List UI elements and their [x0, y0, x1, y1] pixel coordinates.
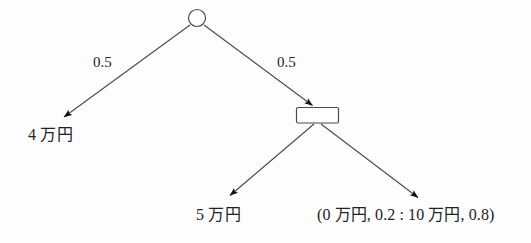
outcome-label-right-lottery: (0 万円, 0.2 : 10 万円, 0.8)	[317, 207, 495, 223]
chance-node-circle	[189, 10, 206, 27]
edge-root-to-decision	[204, 25, 313, 106]
edge-decision-to-right	[321, 124, 418, 198]
outcome-label-middle: 5 万円	[196, 207, 241, 223]
decision-tree-diagram: 0.5 0.5 4 万円 5 万円 (0 万円, 0.2 : 10 万円, 0.…	[0, 0, 531, 243]
decision-node-rect	[297, 108, 339, 124]
probability-label-left: 0.5	[93, 55, 112, 70]
edge-root-to-left	[64, 25, 190, 117]
probability-label-right: 0.5	[277, 55, 296, 70]
outcome-label-left: 4 万円	[28, 127, 73, 143]
edge-decision-to-left	[230, 124, 314, 196]
